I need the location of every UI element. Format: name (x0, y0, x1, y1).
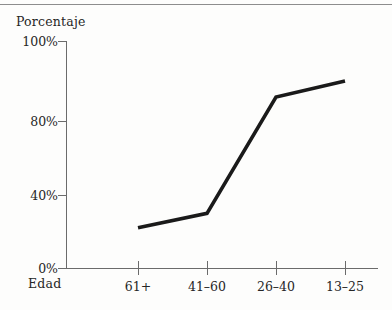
y-tick-label-100: 100% (22, 34, 58, 49)
x-tick-label-61-plus: 61+ (125, 279, 151, 294)
data-series-line (138, 81, 345, 228)
y-tick-label-80: 80% (30, 114, 58, 129)
x-tick-label-3-wrap: 13–25 (305, 276, 385, 295)
x-axis-title: Edad (28, 276, 61, 291)
x-tick-label-2-wrap: 26–40 (236, 276, 316, 295)
chart-figure: Porcentaje Edad 100% 80% 40% 0% 61+ 41–6… (0, 0, 392, 310)
line-chart-plot (0, 0, 392, 310)
y-tick-label-40: 40% (30, 188, 58, 203)
y-axis-title: Porcentaje (16, 14, 86, 29)
x-tick-label-13-25: 13–25 (326, 279, 364, 294)
y-tick-label-0: 0% (38, 261, 58, 276)
x-tick-label-1-wrap: 41–60 (167, 276, 247, 295)
x-tick-label-0-wrap: 61+ (98, 276, 178, 295)
x-tick-label-41-60: 41–60 (188, 279, 226, 294)
x-tick-label-26-40: 26–40 (257, 279, 295, 294)
